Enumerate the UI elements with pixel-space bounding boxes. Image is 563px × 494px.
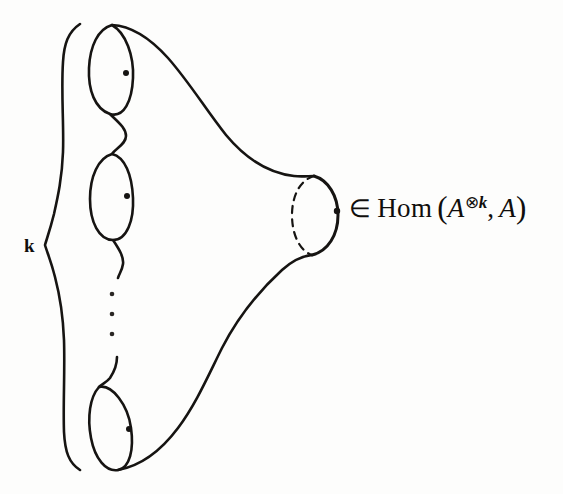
output-boundary-marker-dot — [334, 208, 340, 214]
input-group-brace — [45, 24, 80, 470]
domain-base-A: A — [448, 193, 465, 223]
cobordism-surface-drawing — [0, 0, 563, 494]
output-boundary-hidden-arc — [292, 176, 314, 255]
ellipsis-dot-3 — [110, 332, 115, 337]
input-boundary-circle-k — [89, 387, 132, 470]
handle-1-to-2-connector — [110, 114, 126, 154]
figure-canvas: k ∈Hom(A⊗k,A) — [0, 0, 563, 494]
handle-k-tail — [99, 357, 117, 387]
handle-k-marker-dot — [126, 426, 132, 432]
surface-upper-outline — [112, 25, 314, 176]
domain-superscript-k: k — [479, 193, 488, 212]
vertical-ellipsis — [110, 292, 115, 337]
domain-superscript: ⊗k — [465, 193, 488, 212]
input-boundary-circle-2 — [90, 154, 133, 240]
open-paren: ( — [437, 190, 448, 225]
codomain-A: A — [499, 193, 516, 223]
ellipsis-dot-2 — [110, 312, 115, 317]
expression-comma: , — [487, 193, 499, 223]
handle-1-marker-dot — [123, 70, 129, 76]
surface-lower-outline — [118, 255, 312, 470]
output-boundary-circle — [292, 176, 340, 255]
handle-2-tail — [113, 240, 123, 278]
otimes-icon: ⊗ — [465, 193, 479, 212]
hom-word: Hom — [377, 193, 437, 223]
member-of-symbol: ∈ — [349, 195, 377, 222]
brace-label-k: k — [24, 236, 35, 255]
handle-2-marker-dot — [124, 193, 130, 199]
input-boundary-circle-1 — [89, 25, 133, 115]
ellipsis-dot-1 — [110, 292, 115, 297]
close-paren: ) — [516, 190, 527, 225]
hom-expression: ∈Hom(A⊗k,A) — [349, 192, 527, 223]
